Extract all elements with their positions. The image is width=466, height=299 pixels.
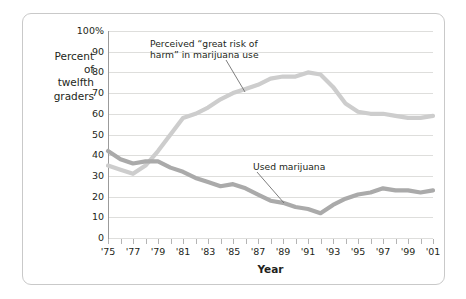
x-axis-tick-label: '97 [370,247,396,257]
x-axis-tick [358,239,359,244]
x-axis-tick [258,239,259,244]
x-axis-tick [108,239,109,244]
plot-area [108,31,433,238]
y-axis-tick-label: 60 [68,109,104,119]
x-axis-tick [133,239,134,244]
gridline [108,176,433,177]
gridline [108,197,433,198]
x-axis-tick-label: '81 [170,247,196,257]
gridline [108,72,433,73]
x-axis-tick [158,239,159,244]
y-axis-tick-label: 40 [68,150,104,160]
x-axis-tick-label: '87 [245,247,271,257]
x-axis-tick [333,239,334,244]
x-axis-tick [296,239,297,244]
x-axis-tick-label: '93 [320,247,346,257]
x-axis-tick [233,239,234,244]
gridline [108,217,433,218]
annotation-perceived-risk: Perceived “great risk of harm” in mariju… [150,38,272,60]
y-axis-tick-label: 30 [68,171,104,181]
gridline [108,114,433,115]
x-axis-tick-label: '77 [120,247,146,257]
x-axis-tick [208,239,209,244]
x-axis-tick [433,239,434,244]
gridline [108,135,433,136]
x-axis-tick-label: '75 [95,247,121,257]
x-axis-tick-label: '83 [195,247,221,257]
x-axis-tick-label: '01 [420,247,446,257]
x-axis-tick [221,239,222,244]
x-axis-tick-label: '99 [395,247,421,257]
x-axis-tick [408,239,409,244]
gridline [108,31,433,32]
chart-figure: Percent of twelfth graders 100%908070605… [0,0,466,299]
x-axis-tick [283,239,284,244]
x-axis-tick [121,239,122,244]
x-axis-tick [196,239,197,244]
x-axis-tick-label: '89 [270,247,296,257]
x-axis-tick-label: '79 [145,247,171,257]
y-axis-tick-label: 20 [68,192,104,202]
x-axis-tick [383,239,384,244]
y-axis-tick-label: 50 [68,130,104,140]
x-axis-tick [146,239,147,244]
x-axis-tick-label: '91 [295,247,321,257]
x-axis-tick-label: '95 [345,247,371,257]
y-axis-tick-label: 0 [68,233,104,243]
x-axis-tick-label: '85 [220,247,246,257]
x-axis-title: Year [108,263,433,275]
y-axis-tick-label: 10 [68,212,104,222]
y-axis-tick-label: 70 [68,88,104,98]
x-axis-tick [271,239,272,244]
x-axis-tick [421,239,422,244]
x-axis-tick [396,239,397,244]
x-axis-tick [171,239,172,244]
x-axis-tick [308,239,309,244]
x-axis-tick [371,239,372,244]
y-axis-tick-label: 80 [68,67,104,77]
gridline [108,93,433,94]
y-axis-line [108,31,109,239]
x-axis-tick [346,239,347,244]
x-axis-tick [321,239,322,244]
annotation-used-marijuana: Used marijuana [253,161,345,172]
x-axis-tick [183,239,184,244]
y-axis-tick-label: 100% [68,26,104,36]
y-axis-tick-label: 90 [68,47,104,57]
gridline [108,155,433,156]
x-axis-tick [246,239,247,244]
